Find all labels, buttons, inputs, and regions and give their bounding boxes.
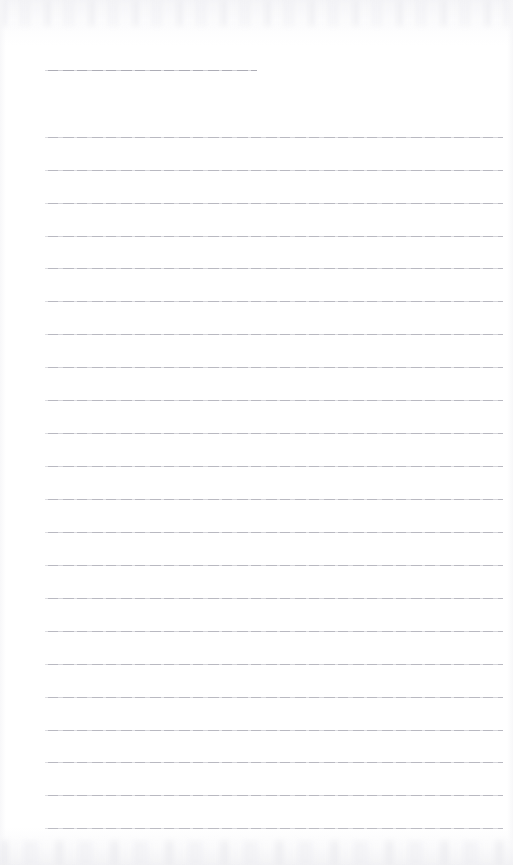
ruled-line-12 (45, 499, 503, 500)
header-rule (45, 70, 257, 71)
ruled-line-11 (45, 466, 503, 467)
ruled-line-6 (45, 301, 503, 302)
ruled-line-7 (45, 334, 503, 335)
ruled-line-4 (45, 236, 503, 237)
ruled-line-18 (45, 697, 503, 698)
ruled-line-20 (45, 762, 503, 763)
lined-paper-page (0, 0, 513, 865)
ruled-line-22 (45, 828, 503, 829)
ruled-line-15 (45, 598, 503, 599)
ruled-line-17 (45, 664, 503, 665)
ruled-line-19 (45, 730, 503, 731)
scan-edge-bottom (0, 827, 513, 865)
ruled-line-13 (45, 532, 503, 533)
ruled-line-9 (45, 400, 503, 401)
ruled-line-21 (45, 795, 503, 796)
scan-edge-left (0, 0, 6, 865)
ruled-line-1 (45, 137, 503, 138)
ruled-line-8 (45, 367, 503, 368)
ruled-line-2 (45, 170, 503, 171)
scan-edge-right (507, 0, 513, 865)
ruled-line-16 (45, 631, 503, 632)
ruled-line-5 (45, 268, 503, 269)
ruled-line-14 (45, 565, 503, 566)
ruled-line-3 (45, 203, 503, 204)
scan-edge-top (0, 0, 513, 46)
ruled-line-10 (45, 433, 503, 434)
